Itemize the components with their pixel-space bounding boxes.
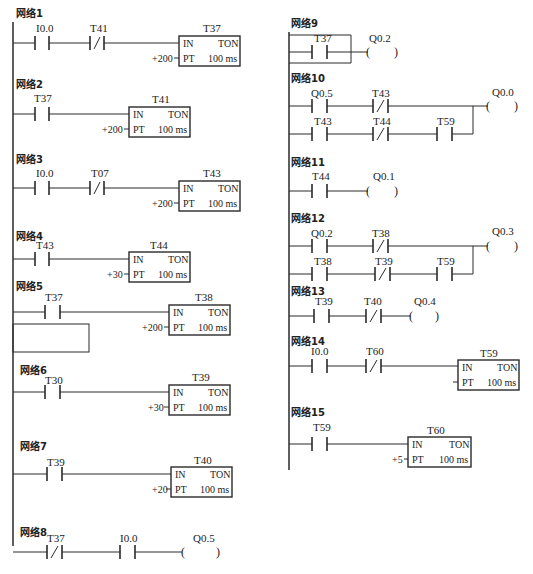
- contact-label: I0.0: [120, 532, 138, 544]
- svg-text:): ): [394, 184, 398, 198]
- timer-preset: +30: [148, 402, 164, 413]
- svg-text:): ): [435, 309, 439, 323]
- network-14: 网络14 I0.0 T60 T59 IN TON PT 100 ms: [289, 335, 519, 390]
- timer-base: 100 ms: [487, 377, 516, 388]
- timer-type: TON: [449, 439, 469, 450]
- coil-label: Q0.2: [369, 32, 391, 44]
- timer-preset: +200: [152, 198, 173, 209]
- coil-label: Q0.3: [492, 225, 514, 237]
- contact-label: T37: [47, 532, 65, 544]
- nc-contact-icon: [373, 127, 388, 141]
- contact-label: I0.0: [311, 345, 329, 357]
- coil-label: Q0.0: [492, 86, 514, 98]
- svg-text:(: (: [366, 45, 370, 59]
- timer-name: T38: [195, 291, 213, 303]
- contact-label: T38: [314, 255, 332, 267]
- output-coil-icon: ( ): [486, 99, 518, 113]
- timer-in-pin: IN: [173, 387, 184, 398]
- timer-pt-pin: PT: [175, 484, 187, 495]
- timer-preset: +30: [107, 269, 123, 280]
- nc-contact-icon: [90, 181, 104, 195]
- timer-type: TON: [218, 38, 238, 49]
- network-5: 网络5 T37 T38 IN TON PT 100 ms +200: [13, 280, 230, 352]
- contact-label: T43: [36, 239, 54, 251]
- contact-label: T39: [315, 295, 333, 307]
- nc-contact-icon: [373, 239, 388, 253]
- network-11: 网络11 T44 Q0.1 ( ): [289, 156, 398, 198]
- coil-label: Q0.1: [373, 170, 395, 182]
- contact-label: T44: [373, 115, 391, 127]
- network-1: 网络1 I0.0 T41 T37 IN TON PT 100 ms +200: [13, 7, 240, 66]
- no-contact-icon: [312, 99, 327, 113]
- network-label: 网络9: [291, 17, 318, 29]
- svg-text:): ): [514, 239, 518, 253]
- nc-contact-icon: [373, 99, 388, 113]
- coil-label: Q0.4: [414, 295, 436, 307]
- nc-contact-icon: [47, 545, 62, 559]
- timer-pt-pin: PT: [183, 198, 195, 209]
- timer-preset: +200: [142, 322, 163, 333]
- output-coil-icon: ( ): [486, 239, 518, 253]
- timer-name: T44: [150, 239, 168, 251]
- timer-base: 100 ms: [158, 124, 187, 135]
- timer-in-pin: IN: [462, 362, 473, 373]
- contact-label: T59: [437, 115, 455, 127]
- svg-text:(: (: [366, 184, 370, 198]
- network-15: 网络15 T59 T60 IN TON PT 100 ms +5: [289, 406, 471, 467]
- no-contact-icon: [35, 36, 49, 50]
- no-contact-icon: [35, 107, 49, 121]
- network-label: 网络15: [291, 406, 325, 418]
- no-contact-icon: [437, 127, 452, 141]
- contact-label: T38: [372, 227, 390, 239]
- output-coil-icon: ( ): [366, 45, 398, 59]
- contact-label: T30: [45, 374, 63, 386]
- nc-contact-icon: [375, 267, 390, 281]
- empty-parallel-branch: [13, 324, 89, 352]
- contact-label: T43: [314, 115, 332, 127]
- contact-label: T39: [375, 255, 393, 267]
- svg-text:(: (: [409, 309, 413, 323]
- timer-name: T39: [192, 371, 210, 383]
- contact-label: T59: [437, 255, 455, 267]
- network-4: 网络4 T43 T44 IN TON PT 100 ms +30: [13, 230, 190, 282]
- timer-pt-pin: PT: [412, 454, 424, 465]
- contact-label: I0.0: [36, 22, 54, 34]
- no-contact-icon: [312, 127, 327, 141]
- timer-base: 100 ms: [198, 402, 227, 413]
- no-contact-icon: [437, 267, 452, 281]
- svg-text:): ): [216, 545, 220, 559]
- timer-name: T43: [203, 167, 221, 179]
- svg-text:(: (: [486, 239, 490, 253]
- network-label: 网络5: [16, 280, 43, 292]
- contact-label: T44: [312, 170, 330, 182]
- nc-contact-icon: [90, 36, 104, 50]
- timer-pt-pin: PT: [183, 53, 195, 64]
- timer-name: T60: [427, 424, 445, 436]
- timer-pt-pin: PT: [173, 322, 185, 333]
- contact-label: T60: [366, 345, 384, 357]
- contact-label: T39: [47, 456, 65, 468]
- no-contact-icon: [312, 359, 327, 373]
- timer-pt-pin: PT: [133, 269, 145, 280]
- svg-text:(: (: [486, 99, 490, 113]
- timer-name: T40: [194, 454, 212, 466]
- ladder-diagram: 网络1 I0.0 T41 T37 IN TON PT 100 ms +200 网…: [0, 0, 533, 574]
- no-contact-icon: [312, 45, 327, 59]
- no-contact-icon: [47, 467, 62, 481]
- timer-type: TON: [168, 254, 188, 265]
- contact-label: T41: [90, 22, 108, 34]
- timer-base: 100 ms: [198, 322, 227, 333]
- no-contact-icon: [312, 239, 327, 253]
- timer-pt-pin: PT: [173, 402, 185, 413]
- timer-type: TON: [210, 469, 230, 480]
- nc-contact-icon: [366, 359, 381, 373]
- network-3: 网络3 I0.0 T07 T43 IN TON PT 100 ms +200: [13, 153, 240, 211]
- output-coil-icon: ( ): [409, 309, 439, 323]
- timer-pt-pin: PT: [462, 377, 474, 388]
- timer-type: TON: [497, 362, 517, 373]
- timer-in-pin: IN: [183, 38, 194, 49]
- svg-text:): ): [514, 99, 518, 113]
- contact-label: T59: [313, 421, 331, 433]
- timer-name: T41: [152, 93, 170, 105]
- timer-preset: +5: [392, 454, 403, 465]
